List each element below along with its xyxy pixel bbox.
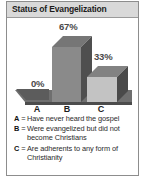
x-axis-label-a: A bbox=[31, 104, 43, 114]
page-title: Status of Evangelization bbox=[12, 4, 107, 14]
legend-text-c: Are adherents to any form of Christianit… bbox=[27, 144, 134, 162]
bar-value-label-b: 67% bbox=[59, 21, 77, 32]
bar-c bbox=[87, 77, 117, 102]
legend-text-b: Were evangelized but did not become Chri… bbox=[27, 124, 134, 142]
x-axis-label-c: C bbox=[95, 104, 107, 114]
legend-item-a: A = Have never heard the gospel bbox=[14, 114, 134, 123]
legend-equals-c: = bbox=[20, 144, 27, 153]
chart-legend: A = Have never heard the gospel B = Were… bbox=[7, 114, 139, 163]
bar-chart: 0% 67% 33% A B C bbox=[7, 18, 139, 112]
legend-item-b: B = Were evangelized but did not become … bbox=[14, 124, 134, 142]
legend-item-c: C = Are adherents to any form of Christi… bbox=[14, 144, 134, 162]
x-axis-label-b: B bbox=[61, 104, 73, 114]
chart-panel: Status of Evangelization 0% 67% 33% A B … bbox=[6, 1, 139, 176]
panel-title-bar: Status of Evangelization bbox=[7, 2, 138, 18]
bar-value-label-a: 0% bbox=[31, 78, 44, 89]
legend-equals-b: = bbox=[20, 124, 27, 133]
legend-equals-a: = bbox=[20, 114, 27, 123]
bar-b bbox=[52, 47, 81, 102]
legend-text-a: Have never heard the gospel bbox=[27, 114, 134, 123]
bar-value-label-c: 33% bbox=[94, 51, 112, 62]
